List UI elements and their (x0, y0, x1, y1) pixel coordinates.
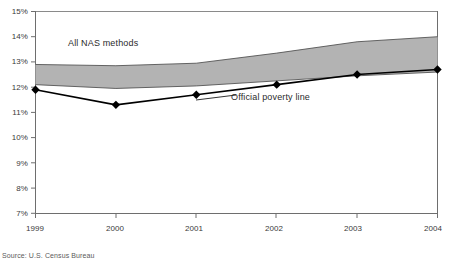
poverty-rate-chart: 15% 14% 13% 12% 11% 10% 9% 8% 7% 1999 20… (0, 0, 459, 262)
data-point-marker (273, 80, 281, 88)
y-axis-ticks (31, 12, 35, 214)
data-point-marker (192, 91, 200, 99)
source-note: Source: U.S. Census Bureau (2, 252, 94, 259)
annotation-all-nas-methods: All NAS methods (68, 38, 138, 48)
data-point-marker (112, 101, 120, 109)
poverty-label-leader (196, 95, 236, 100)
annotation-official-poverty-line: Official poverty line (231, 92, 310, 102)
